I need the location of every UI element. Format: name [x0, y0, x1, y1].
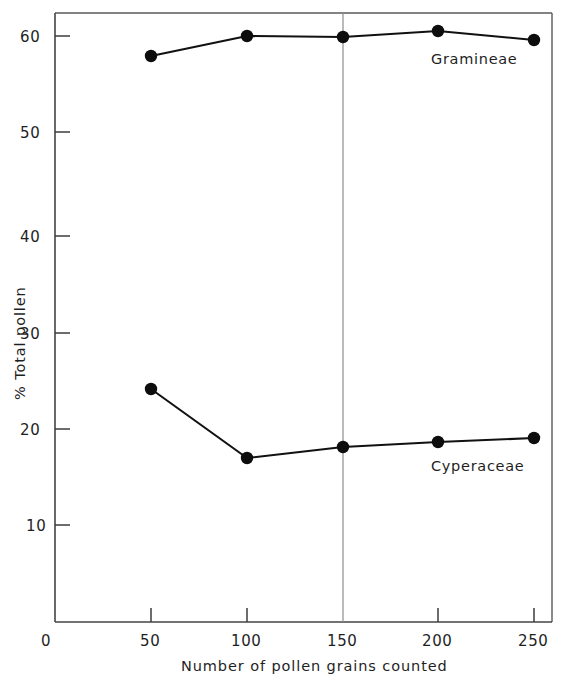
y-tick-label-40: 40 [20, 228, 40, 246]
y-axis-title: % Total pollen [12, 286, 28, 400]
chart-canvas [0, 0, 573, 683]
x-tick-label-200: 200 [422, 632, 452, 650]
x-tick-label-50: 50 [140, 632, 160, 650]
data-point [432, 25, 444, 37]
series-label-gramineae: Gramineae [431, 51, 517, 67]
data-point [528, 432, 540, 444]
data-point [145, 50, 157, 62]
data-point [432, 436, 444, 448]
data-point [241, 30, 253, 42]
data-point [241, 452, 253, 464]
y-tick-label-60: 60 [20, 28, 40, 46]
plot-frame [55, 13, 552, 622]
x-tick-label-150: 150 [327, 632, 357, 650]
data-point [337, 441, 349, 453]
data-point [528, 34, 540, 46]
data-point [337, 31, 349, 43]
y-axis-ticks [55, 36, 70, 525]
series-label-cyperaceae: Cyperaceae [431, 458, 524, 474]
pollen-count-figure: 60 50 40 30 20 10 0 50 100 150 200 250 %… [0, 0, 573, 683]
x-axis-title: Number of pollen grains counted [181, 658, 448, 674]
y-tick-label-20: 20 [20, 421, 40, 439]
x-tick-label-0: 0 [41, 632, 51, 650]
data-point [145, 383, 157, 395]
y-tick-label-50: 50 [20, 124, 40, 142]
x-tick-label-250: 250 [518, 632, 548, 650]
x-tick-label-100: 100 [231, 632, 261, 650]
y-tick-label-10: 10 [26, 517, 46, 535]
